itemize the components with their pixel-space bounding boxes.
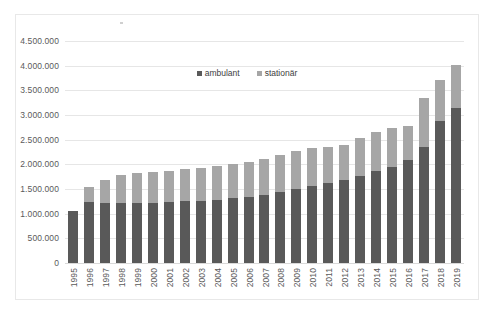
stacked-bar[interactable] [84, 187, 94, 263]
stacked-bar[interactable] [68, 211, 78, 263]
bar-slot [304, 41, 320, 263]
x-axis-tick-label: 2010 [308, 268, 318, 287]
stacked-bar[interactable] [116, 175, 126, 263]
gridline [65, 263, 464, 264]
bar-segment-stationaer [419, 98, 429, 147]
x-axis-tick-label: 2004 [213, 268, 223, 287]
x-axis-tick-label: 2001 [165, 268, 175, 287]
stacked-bar[interactable] [323, 147, 333, 263]
bar-segment-stationaer [148, 172, 158, 203]
bar-segment-stationaer [323, 147, 333, 184]
stacked-bar[interactable] [132, 173, 142, 263]
stacked-bar[interactable] [180, 169, 190, 263]
x-axis-tick-label: 2011 [324, 268, 334, 287]
stacked-bar[interactable] [196, 168, 206, 263]
y-axis-tick-label: 500.000 [28, 233, 59, 243]
bar-segment-ambulant [275, 192, 285, 263]
stacked-bar[interactable] [403, 126, 413, 263]
stacked-bar[interactable] [164, 171, 174, 263]
x-axis-tick-label: 2014 [372, 268, 382, 287]
bar-slot [145, 41, 161, 263]
stacked-bar[interactable] [275, 155, 285, 263]
x-axis-tick-label: 2008 [276, 268, 286, 287]
stacked-bar[interactable] [228, 164, 238, 263]
y-axis-tick-label: 3.500.000 [20, 85, 59, 95]
stacked-bar[interactable] [435, 80, 445, 263]
stacked-bar[interactable] [355, 138, 365, 263]
bar-segment-stationaer [244, 162, 254, 197]
bar-segment-ambulant [403, 160, 413, 263]
stray-mark [120, 22, 123, 24]
bar-slot [97, 41, 113, 263]
y-axis-tick-label: 1.500.000 [20, 184, 59, 194]
bar-segment-stationaer [259, 159, 269, 195]
stacked-bar[interactable] [339, 145, 349, 263]
y-axis-tick-label: 4.000.000 [20, 61, 59, 71]
y-axis-tick-label: 0 [54, 258, 59, 268]
bar-segment-ambulant [228, 198, 238, 263]
y-axis-tick-label: 3.000.000 [20, 110, 59, 120]
x-axis-tick-label: 2015 [388, 268, 398, 287]
bar-segment-ambulant [212, 200, 222, 263]
y-axis-tick-label: 1.000.000 [20, 209, 59, 219]
stacked-bar[interactable] [419, 98, 429, 263]
bar-segment-stationaer [387, 128, 397, 167]
bar-slot [448, 41, 464, 263]
bar-segment-ambulant [371, 171, 381, 263]
y-axis-tick-label: 2.500.000 [20, 135, 59, 145]
x-axis-tick-label: 1996 [85, 268, 95, 287]
stacked-bar[interactable] [100, 180, 110, 263]
bar-segment-stationaer [435, 80, 445, 121]
bar-slot [432, 41, 448, 263]
bar-segment-stationaer [100, 180, 110, 204]
x-axis-tick-label: 2018 [436, 268, 446, 287]
legend-swatch-icon-ambulant [197, 71, 202, 76]
y-axis-tick-label: 4.500.000 [20, 36, 59, 46]
bar-slot [368, 41, 384, 263]
bar-slot [320, 41, 336, 263]
bar-slot [65, 41, 81, 263]
bar-segment-ambulant [435, 121, 445, 263]
bar-slot [177, 41, 193, 263]
x-axis-tick-label: 2002 [181, 268, 191, 287]
stacked-bar[interactable] [259, 159, 269, 263]
x-axis-tick-label: 2005 [229, 268, 239, 287]
bar-segment-stationaer [116, 175, 126, 203]
bar-slot [336, 41, 352, 263]
bar-slot [400, 41, 416, 263]
bar-segment-stationaer [212, 166, 222, 199]
bar-slot [352, 41, 368, 263]
bar-segment-ambulant [196, 201, 206, 263]
bar-segment-ambulant [387, 167, 397, 263]
legend-item-stationaer[interactable]: stationär [257, 68, 298, 78]
bar-segment-stationaer [196, 168, 206, 201]
bar-segment-ambulant [68, 211, 78, 263]
bar-segment-stationaer [339, 145, 349, 180]
stacked-bar[interactable] [244, 162, 254, 263]
bar-segment-stationaer [84, 187, 94, 203]
bar-segment-stationaer [275, 155, 285, 192]
bar-segment-ambulant [180, 201, 190, 263]
bar-segment-stationaer [291, 151, 301, 189]
bar-slot [384, 41, 400, 263]
bar-segment-stationaer [180, 169, 190, 201]
legend-item-ambulant[interactable]: ambulant [197, 68, 240, 78]
stacked-bar[interactable] [451, 65, 461, 263]
x-axis-tick-label: 2012 [340, 268, 350, 287]
x-axis-tick-label: 2007 [261, 268, 271, 287]
bar-segment-ambulant [84, 202, 94, 263]
stacked-bar[interactable] [307, 148, 317, 263]
bar-segment-ambulant [323, 183, 333, 263]
x-axis-tick-label: 1995 [69, 268, 79, 287]
bar-segment-stationaer [164, 171, 174, 202]
x-axis-tick-label: 2016 [404, 268, 414, 287]
x-axis-tick-label: 2009 [292, 268, 302, 287]
stacked-bar[interactable] [148, 172, 158, 263]
stacked-bar[interactable] [291, 151, 301, 263]
stacked-bar[interactable] [371, 132, 381, 263]
stacked-bar[interactable] [387, 128, 397, 263]
legend-label-ambulant: ambulant [205, 68, 240, 78]
bar-slot [81, 41, 97, 263]
stacked-bar[interactable] [212, 166, 222, 263]
bar-segment-ambulant [339, 180, 349, 263]
